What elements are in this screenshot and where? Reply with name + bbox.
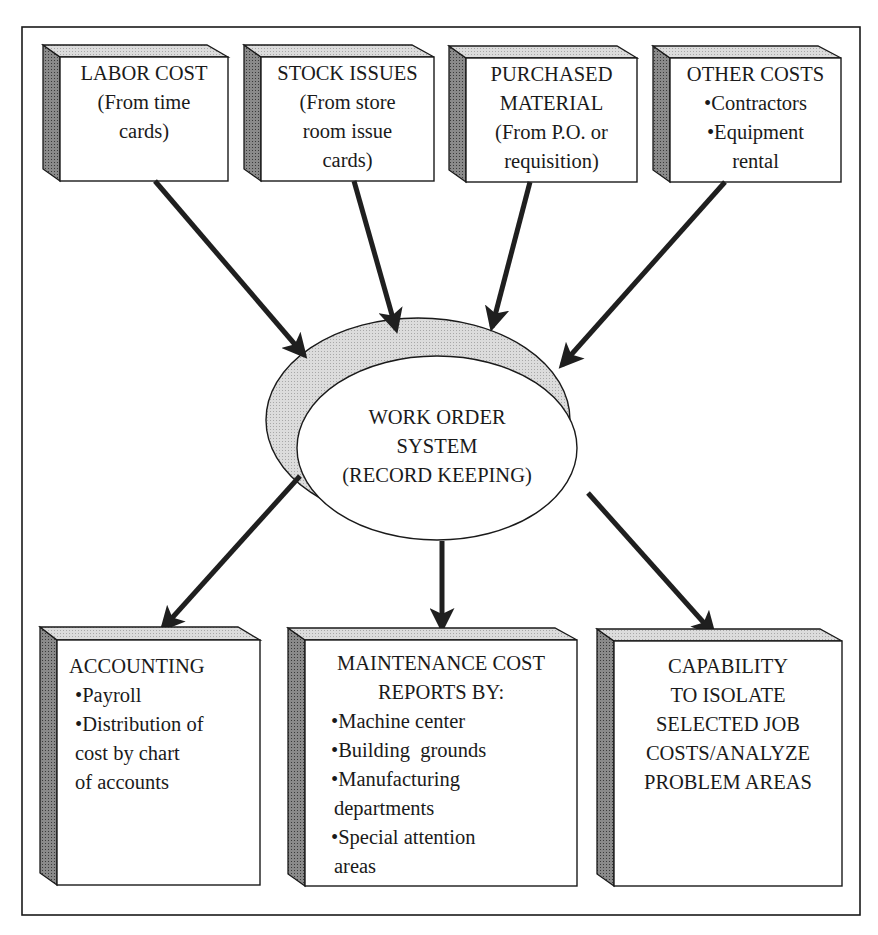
labor-cost-title: LABOR COST (60, 59, 228, 88)
accounting-item: of accounts (69, 768, 259, 797)
capability-line: SELECTED JOB (614, 710, 842, 739)
arrow-system-to-accounting (163, 476, 300, 628)
arrow-other-to-system (562, 182, 725, 365)
purchased-material-line: MATERIAL (466, 89, 637, 118)
stock-issues-line: cards) (261, 146, 434, 175)
purchased-material-line: (From P.O. or (466, 118, 637, 147)
arrow-stock-to-system (354, 181, 396, 329)
stock-issues-line: (From store (261, 88, 434, 117)
other-costs-label: OTHER COSTS Contractors Equipment rental (670, 60, 841, 176)
arrow-labor-to-system (155, 181, 304, 355)
stock-issues-title: STOCK ISSUES (261, 59, 434, 88)
capability-line: COSTS/ANALYZE (614, 739, 842, 768)
center-line: WORK ORDER (297, 403, 577, 432)
other-costs-title: OTHER COSTS (670, 60, 841, 89)
maintenance-item: Special attention (338, 826, 475, 848)
center-line: (RECORD KEEPING) (297, 461, 577, 490)
center-line: SYSTEM (297, 432, 577, 461)
other-costs-item: rental (670, 147, 841, 176)
purchased-material-title: PURCHASED (466, 60, 637, 89)
accounting-label: ACCOUNTING Payroll Distribution of cost … (69, 652, 259, 797)
stock-issues-label: STOCK ISSUES (From store room issue card… (261, 59, 434, 175)
stock-issues-line: room issue (261, 117, 434, 146)
labor-cost-line: (From time (60, 88, 228, 117)
maintenance-item: departments (305, 794, 577, 823)
capability-title: CAPABILITY (614, 652, 842, 681)
labor-cost-line: cards) (60, 117, 228, 146)
capability-line: TO ISOLATE (614, 681, 842, 710)
maintenance-item: Machine center (338, 710, 465, 732)
capability-label: CAPABILITY TO ISOLATE SELECTED JOB COSTS… (614, 652, 842, 797)
maintenance-title: MAINTENANCE COST (305, 649, 577, 678)
purchased-material-label: PURCHASED MATERIAL (From P.O. or requisi… (466, 60, 637, 176)
accounting-title: ACCOUNTING (69, 652, 259, 681)
capability-line: PROBLEM AREAS (614, 768, 842, 797)
other-costs-item: Equipment (714, 121, 804, 143)
purchased-material-line: requisition) (466, 147, 637, 176)
accounting-item: Distribution of (82, 713, 203, 735)
accounting-item: Payroll (82, 684, 141, 706)
work-order-system-label: WORK ORDER SYSTEM (RECORD KEEPING) (297, 403, 577, 490)
other-costs-item: Contractors (711, 92, 807, 114)
maintenance-cost-label: MAINTENANCE COST REPORTS BY: Machine cen… (305, 649, 577, 881)
arrow-purchased-to-system (492, 182, 530, 327)
labor-cost-label: LABOR COST (From time cards) (60, 59, 228, 146)
maintenance-subtitle: REPORTS BY: (305, 678, 577, 707)
maintenance-item: Building grounds (338, 739, 486, 761)
accounting-item: cost by chart (69, 739, 259, 768)
maintenance-item: Manufacturing (338, 768, 460, 790)
arrow-system-to-capability (588, 493, 713, 633)
maintenance-item: areas (305, 852, 577, 881)
